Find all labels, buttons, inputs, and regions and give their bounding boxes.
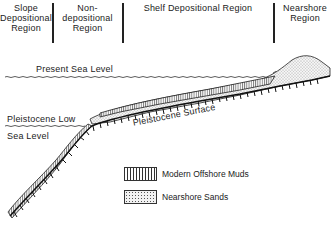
legend-item-sands: Nearshore Sands — [124, 190, 228, 204]
sea-level-label: Sea Level — [7, 131, 49, 141]
hatch-swatch-icon — [124, 167, 157, 181]
present-sea-level-line — [5, 74, 299, 78]
pleistocene-low-sea-level-line — [5, 126, 85, 127]
legend-label: Nearshore Sands — [162, 192, 228, 202]
pleistocene-low-label: Pleistocene Low — [7, 114, 76, 124]
legend-label: Modern Offshore Muds — [162, 169, 249, 179]
present-sea-level-label: Present Sea Level — [36, 64, 113, 74]
stipple-swatch-icon — [124, 190, 157, 204]
legend-item-muds: Modern Offshore Muds — [124, 167, 249, 181]
